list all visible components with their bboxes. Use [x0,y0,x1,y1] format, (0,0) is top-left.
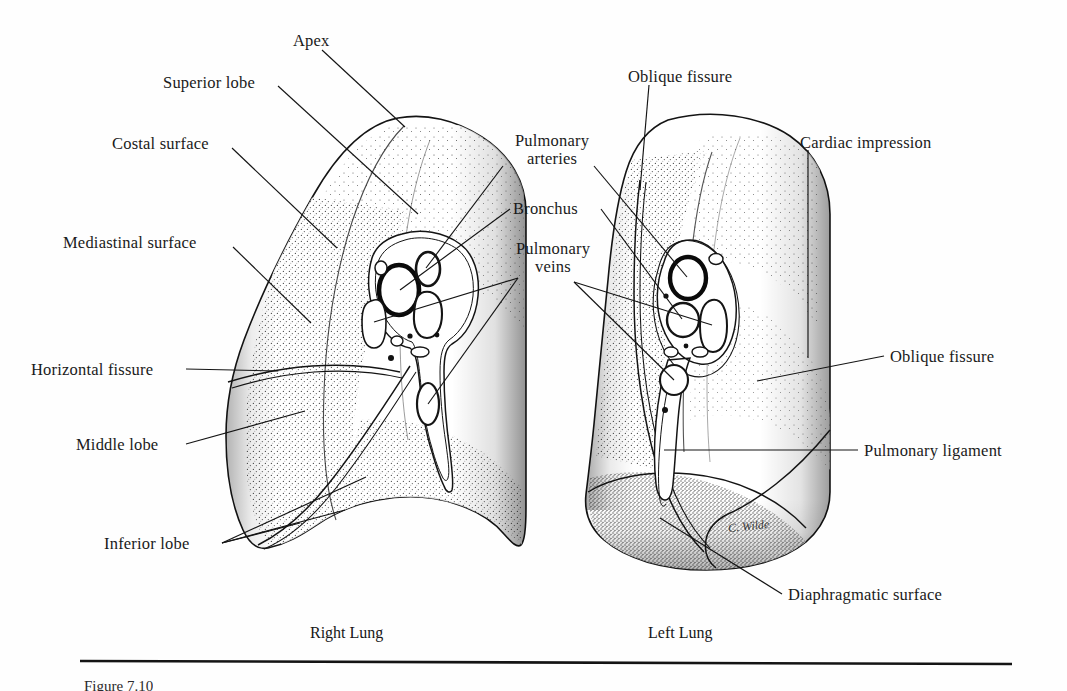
left-superior-vein [700,300,727,352]
figure-caption: Figure 7.10 [84,678,153,691]
label-horizontal-fissure: Horizontal fissure [31,361,153,379]
label-pulmonary-arteries: Pulmonary arteries [506,132,598,169]
right-lymph-node-2 [391,336,403,346]
right-lymph-node-1 [375,261,387,275]
left-lymph-node-2 [692,347,708,357]
label-mediastinal-surface: Mediastinal surface [63,234,196,252]
right-anterior-vein [362,300,386,348]
left-base-edge-shade [586,500,836,572]
left-lymph-node-3 [664,347,678,357]
left-lung-drawing [586,114,836,572]
left-node-dot-2 [684,344,689,349]
label-cardiac-impression: Cardiac impression [800,134,931,152]
right-artery-lower [414,292,442,338]
caption-left-lung: Left Lung [648,624,712,642]
label-pulmonary-ligament: Pulmonary ligament [864,442,1002,460]
label-inferior-lobe: Inferior lobe [104,535,190,553]
label-pulmonary-veins: Pulmonary veins [507,240,599,277]
figure-page: Apex Superior lobe Costal surface Medias… [0,0,1067,691]
label-middle-lobe: Middle lobe [76,436,158,454]
label-bronchus: Bronchus [513,200,578,218]
label-costal-surface: Costal surface [112,135,209,153]
right-node-dot-3 [388,355,394,361]
left-node-dot-3 [662,407,668,413]
label-superior-lobe: Superior lobe [163,74,255,92]
caption-right-lung: Right Lung [310,624,383,642]
left-lymph-node-1 [709,254,723,265]
label-oblique-fissure-top: Oblique fissure [628,68,732,86]
label-oblique-fissure-right: Oblique fissure [890,348,994,366]
label-apex: Apex [293,32,330,50]
right-lymph-node-3 [411,347,429,357]
right-node-dot-2 [435,333,440,338]
leader-apex [322,50,405,127]
right-lung-drawing [226,116,530,550]
right-node-dot-1 [407,333,412,338]
figure-rule [80,661,1012,664]
left-anterior-edge-shade [586,180,634,510]
left-posterior-edge-shade [760,120,834,550]
label-diaphragmatic-surface: Diaphragmatic surface [788,586,942,604]
